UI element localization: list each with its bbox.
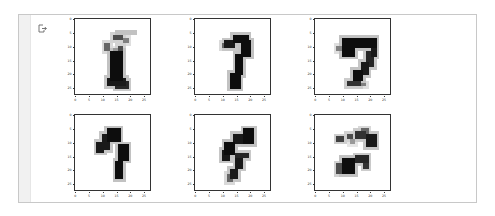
output-cell: 0510152025051015202505101520250510152025…	[18, 14, 477, 203]
x-tick-label: 20	[248, 194, 252, 198]
y-tick-label: 15	[307, 59, 311, 63]
x-tick-label: 0	[74, 194, 76, 198]
x-tick-label: 25	[262, 98, 266, 102]
x-tick-label: 15	[355, 98, 359, 102]
y-tick-label: 15	[187, 155, 191, 159]
y-tick-label: 10	[67, 45, 71, 49]
y-tick-label: 25	[307, 182, 311, 186]
x-tick-label: 20	[128, 98, 132, 102]
digit-plot-3: 05101520250510152025	[305, 18, 405, 110]
x-tick-label: 15	[355, 194, 359, 198]
y-tick-label: 15	[187, 59, 191, 63]
y-tick-label: 15	[67, 59, 71, 63]
x-tick-label: 5	[328, 194, 330, 198]
x-tick-label: 10	[101, 98, 105, 102]
x-tick-label: 25	[142, 98, 146, 102]
y-tick-label: 20	[67, 168, 71, 172]
x-tick-label: 0	[74, 98, 76, 102]
x-tick-label: 0	[314, 194, 316, 198]
x-tick-label: 15	[115, 194, 119, 198]
y-tick-label: 5	[309, 127, 311, 131]
y-tick-label: 5	[189, 127, 191, 131]
digit-plot-6: 05101520250510152025	[305, 114, 405, 206]
x-tick-label: 20	[368, 194, 372, 198]
y-tick-label: 25	[187, 182, 191, 186]
x-tick-label: 5	[88, 194, 90, 198]
y-tick-label: 20	[187, 72, 191, 76]
y-tick-label: 25	[307, 86, 311, 90]
x-tick-label: 25	[382, 194, 386, 198]
cell-gutter	[19, 15, 31, 202]
x-tick-label: 15	[235, 98, 239, 102]
x-tick-label: 25	[262, 194, 266, 198]
y-tick-label: 10	[307, 141, 311, 145]
x-tick-label: 10	[341, 194, 345, 198]
digit-plot-1: 05101520250510152025	[65, 18, 165, 110]
image-axes	[194, 18, 271, 95]
y-tick-label: 10	[187, 141, 191, 145]
y-tick-label: 10	[307, 45, 311, 49]
x-tick-label: 20	[128, 194, 132, 198]
y-tick-label: 5	[309, 31, 311, 35]
x-tick-label: 15	[115, 98, 119, 102]
y-tick-label: 20	[187, 168, 191, 172]
x-tick-label: 5	[208, 98, 210, 102]
x-tick-label: 25	[382, 98, 386, 102]
x-tick-label: 5	[88, 98, 90, 102]
x-tick-label: 15	[235, 194, 239, 198]
y-tick-label: 0	[309, 113, 311, 117]
y-tick-label: 20	[67, 72, 71, 76]
output-redirect-icon-svg	[38, 24, 47, 33]
image-axes	[314, 114, 391, 191]
digit-plot-4: 05101520250510152025	[65, 114, 165, 206]
y-tick-label: 0	[309, 17, 311, 21]
y-tick-label: 20	[307, 168, 311, 172]
y-tick-label: 5	[69, 127, 71, 131]
y-tick-label: 0	[69, 17, 71, 21]
y-tick-label: 5	[189, 31, 191, 35]
y-tick-label: 0	[189, 17, 191, 21]
x-tick-label: 5	[208, 194, 210, 198]
y-tick-label: 5	[69, 31, 71, 35]
x-tick-label: 10	[101, 194, 105, 198]
y-tick-label: 25	[67, 86, 71, 90]
y-tick-label: 15	[307, 155, 311, 159]
image-axes	[194, 114, 271, 191]
x-tick-label: 10	[341, 98, 345, 102]
x-tick-label: 0	[194, 98, 196, 102]
x-tick-label: 20	[368, 98, 372, 102]
y-tick-label: 10	[67, 141, 71, 145]
y-tick-label: 0	[69, 113, 71, 117]
image-axes	[74, 18, 151, 95]
image-axes	[314, 18, 391, 95]
output-redirect-icon[interactable]	[38, 18, 47, 27]
x-tick-label: 0	[314, 98, 316, 102]
x-tick-label: 0	[194, 194, 196, 198]
y-tick-label: 25	[187, 86, 191, 90]
y-tick-label: 25	[67, 182, 71, 186]
y-tick-label: 20	[307, 72, 311, 76]
digit-plot-5: 05101520250510152025	[185, 114, 285, 206]
image-axes	[74, 114, 151, 191]
digit-plot-2: 05101520250510152025	[185, 18, 285, 110]
x-tick-label: 5	[328, 98, 330, 102]
y-tick-label: 0	[189, 113, 191, 117]
y-tick-label: 15	[67, 155, 71, 159]
y-tick-label: 10	[187, 45, 191, 49]
x-tick-label: 25	[142, 194, 146, 198]
x-tick-label: 20	[248, 98, 252, 102]
x-tick-label: 10	[221, 194, 225, 198]
x-tick-label: 10	[221, 98, 225, 102]
